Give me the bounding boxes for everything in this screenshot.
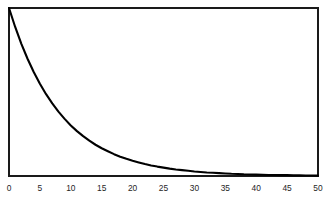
x-tick-label: 30: [190, 183, 200, 193]
x-tick-label: 5: [38, 183, 43, 193]
exponential-decay-chart: 05101520253035404550: [0, 0, 330, 202]
x-tick-label: 20: [128, 183, 138, 193]
x-tick-label: 45: [282, 183, 292, 193]
x-tick-label: 40: [252, 183, 262, 193]
chart-figure: 05101520253035404550: [0, 0, 330, 202]
x-tick-label: 35: [221, 183, 231, 193]
x-tick-label: 50: [313, 183, 323, 193]
x-tick-label: 25: [159, 183, 169, 193]
x-tick-label: 0: [7, 183, 12, 193]
x-tick-label: 15: [97, 183, 107, 193]
x-tick-label: 10: [66, 183, 76, 193]
